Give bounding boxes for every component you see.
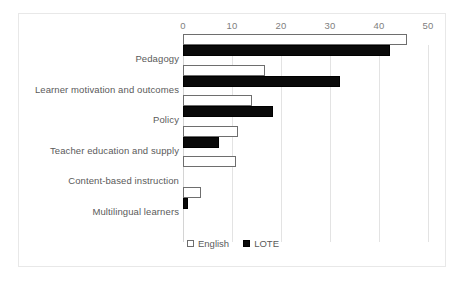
bar-lote-1 bbox=[183, 76, 340, 87]
category-label-2: Policy bbox=[153, 114, 179, 125]
legend-item-english[interactable]: English bbox=[187, 238, 229, 249]
category-label-4: Content-based instruction bbox=[68, 175, 179, 186]
bar-english-4 bbox=[183, 156, 236, 167]
bar-english-2 bbox=[183, 95, 252, 106]
category-label-5: Multilingual learners bbox=[92, 206, 179, 217]
bar-lote-0 bbox=[183, 45, 390, 56]
legend-item-lote[interactable]: LOTE bbox=[243, 238, 279, 249]
bar-lote-3 bbox=[183, 137, 219, 148]
legend-label-lote: LOTE bbox=[254, 238, 279, 249]
chart-frame bbox=[18, 13, 446, 267]
bar-lote-5 bbox=[183, 198, 188, 209]
english-swatch-icon bbox=[187, 240, 194, 247]
legend-label-english: English bbox=[198, 238, 229, 249]
bar-english-3 bbox=[183, 126, 238, 137]
lote-swatch-icon bbox=[243, 240, 250, 247]
category-label-1: Learner motivation and outcomes bbox=[35, 84, 179, 95]
bar-english-0 bbox=[183, 34, 407, 45]
bar-lote-2 bbox=[183, 106, 273, 117]
category-label-3: Teacher education and supply bbox=[50, 145, 179, 156]
category-label-0: Pedagogy bbox=[135, 53, 179, 64]
chart-legend: EnglishLOTE bbox=[0, 238, 466, 249]
bar-english-5 bbox=[183, 187, 201, 198]
bar-english-1 bbox=[183, 65, 265, 76]
